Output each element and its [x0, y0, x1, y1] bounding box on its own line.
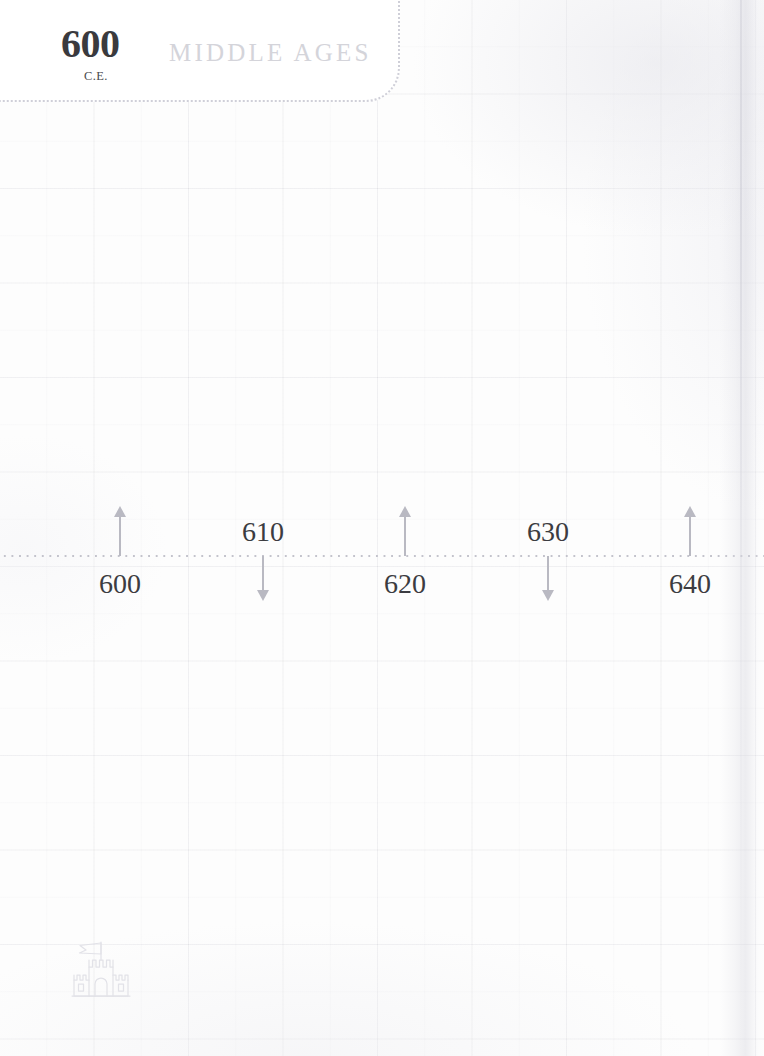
castle-icon	[70, 938, 132, 1004]
graph-paper-grid	[0, 0, 764, 1056]
paper-texture-overlay	[0, 0, 764, 1056]
era-header-card: 600 C.E. MIDDLE AGES	[0, 0, 400, 102]
arrow-down-icon	[257, 590, 269, 601]
tick-label: 630	[488, 518, 608, 546]
tick-label: 610	[203, 518, 323, 546]
tick-stem	[262, 556, 264, 594]
tick-stem	[547, 556, 549, 594]
page-fold-crease	[740, 0, 742, 1056]
tick-stem	[119, 514, 121, 556]
arrow-down-icon	[542, 590, 554, 601]
tick-label: 600	[60, 570, 180, 598]
timeline-page: 600 C.E. MIDDLE AGES 600 610 620 630 640	[0, 0, 764, 1056]
tick-label: 640	[630, 570, 750, 598]
tick-stem	[404, 514, 406, 556]
tick-stem	[689, 514, 691, 556]
timeline-axis	[0, 554, 764, 558]
page-fold-shading	[720, 0, 764, 1056]
era-title: MIDDLE AGES	[169, 40, 372, 65]
era-start-year: 600	[61, 24, 120, 64]
tick-label: 620	[345, 570, 465, 598]
era-start-year-suffix: C.E.	[84, 70, 108, 83]
